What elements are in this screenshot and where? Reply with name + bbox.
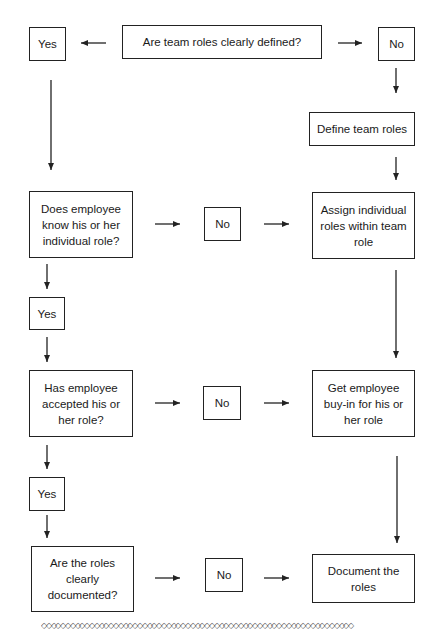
node-label: Document the roles: [317, 563, 410, 595]
yes-node-3: Yes: [29, 477, 65, 511]
yes-node-2: Yes: [29, 297, 65, 330]
node-label: No: [217, 567, 232, 583]
decision-know-individual-role: Does employee know his or her individual…: [29, 191, 133, 258]
diamond-border-divider: ◇◇◇◇◇◇◇◇◇◇◇◇◇◇◇◇◇◇◇◇◇◇◇◇◇◇◇◇◇◇◇◇◇◇◇◇◇◇◇◇…: [41, 621, 426, 631]
node-label: No: [215, 216, 230, 232]
decision-team-roles-defined: Are team roles clearly defined?: [122, 25, 322, 59]
connector-arrows: [0, 0, 443, 635]
action-define-team-roles: Define team roles: [309, 112, 415, 146]
no-node-2: No: [204, 207, 241, 241]
node-label: Define team roles: [317, 121, 407, 137]
node-label: Yes: [38, 486, 57, 502]
node-label: Yes: [38, 36, 57, 52]
node-label: Does employee know his or her individual…: [34, 201, 128, 249]
no-node-1: No: [378, 27, 415, 61]
decision-accepted-role: Has employee accepted his or her role?: [29, 370, 133, 437]
node-label: Are team roles clearly defined?: [143, 34, 302, 50]
no-node-3: No: [203, 386, 241, 420]
node-label: No: [215, 395, 230, 411]
action-document-roles: Document the roles: [312, 554, 415, 603]
no-node-4: No: [205, 558, 243, 592]
action-get-employee-buy-in: Get employee buy-in for his or her role: [312, 370, 415, 437]
node-label: Yes: [38, 306, 57, 322]
yes-node-1: Yes: [29, 27, 66, 61]
action-assign-individual-roles: Assign individual roles within team role: [312, 192, 415, 259]
decision-roles-documented: Are the roles clearly documented?: [31, 546, 134, 612]
node-label: Has employee accepted his or her role?: [34, 380, 128, 428]
node-label: Are the roles clearly documented?: [36, 555, 129, 603]
node-label: Get employee buy-in for his or her role: [317, 380, 410, 428]
node-label: Assign individual roles within team role: [317, 202, 410, 250]
node-label: No: [389, 36, 404, 52]
